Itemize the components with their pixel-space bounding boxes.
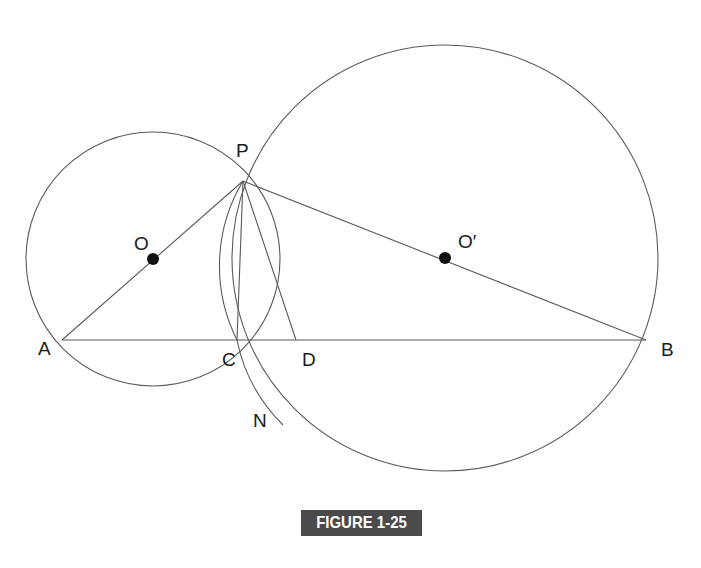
label-d: D	[302, 349, 316, 370]
label-c: C	[222, 349, 236, 370]
label-o: O	[134, 233, 149, 254]
label-b: B	[661, 339, 674, 360]
point-o	[147, 253, 159, 265]
label-p: P	[236, 140, 249, 161]
geometry-figure: P O O′ A C D B N	[0, 0, 701, 568]
point-o-prime	[439, 252, 451, 264]
label-n: N	[253, 410, 267, 431]
figure-caption-text: FIGURE 1-25	[316, 513, 407, 533]
segment-pd	[243, 181, 296, 340]
label-o-prime: O′	[458, 231, 477, 252]
figure-caption: FIGURE 1-25	[301, 510, 422, 536]
label-a: A	[38, 338, 51, 359]
